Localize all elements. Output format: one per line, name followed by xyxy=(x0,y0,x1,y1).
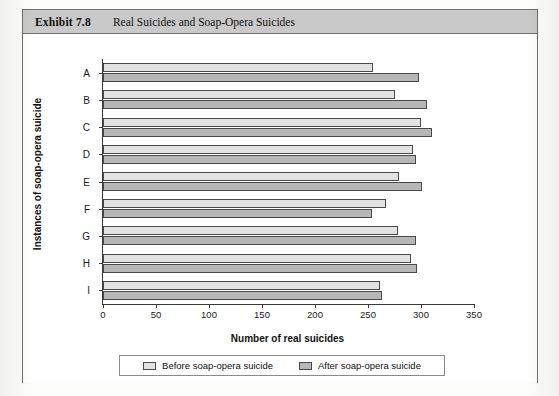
chart-legend: Before soap-opera suicide After soap-ope… xyxy=(119,355,445,376)
y-tick xyxy=(99,182,103,183)
y-tick-label-A: A xyxy=(83,67,90,78)
legend-item-after: After soap-opera suicide xyxy=(299,360,421,371)
x-axis-title: Number of real suicides xyxy=(102,333,473,344)
x-tick xyxy=(368,304,369,308)
bar-B-before xyxy=(103,90,395,99)
x-tick-label: 150 xyxy=(254,309,270,320)
bar-A-before xyxy=(103,63,373,72)
bar-H-before xyxy=(103,254,411,263)
bar-H-after xyxy=(103,264,417,273)
x-tick-label: 50 xyxy=(151,309,162,320)
bar-A-after xyxy=(103,73,419,82)
x-tick xyxy=(262,304,263,308)
bar-E-before xyxy=(103,172,399,181)
chart-area: Instances of soap-opera suicide 05010015… xyxy=(23,34,537,383)
x-tick-label: 100 xyxy=(201,309,217,320)
y-tick-label-H: H xyxy=(83,258,90,269)
plot-area: 050100150200250300350ABCDEFGHI xyxy=(102,59,474,305)
x-tick xyxy=(474,304,475,308)
bar-D-before xyxy=(103,145,413,154)
x-tick-label: 200 xyxy=(307,309,323,320)
exhibit-header: Exhibit 7.8 Real Suicides and Soap-Opera… xyxy=(23,10,537,34)
exhibit-number: Exhibit 7.8 xyxy=(35,16,91,28)
y-tick xyxy=(99,236,103,237)
bar-D-after xyxy=(103,155,416,164)
bar-C-after xyxy=(103,128,432,137)
y-tick-label-D: D xyxy=(83,149,90,160)
y-tick xyxy=(99,127,103,128)
y-tick xyxy=(99,263,103,264)
legend-label-after: After soap-opera suicide xyxy=(318,360,421,371)
bar-B-after xyxy=(103,100,427,109)
bar-F-after xyxy=(103,209,372,218)
legend-swatch-after-icon xyxy=(299,362,312,370)
bar-E-after xyxy=(103,182,422,191)
y-tick-label-C: C xyxy=(83,122,90,133)
x-tick-label: 350 xyxy=(466,309,482,320)
bar-G-before xyxy=(103,226,398,235)
y-tick-label-E: E xyxy=(83,176,90,187)
exhibit-frame: Exhibit 7.8 Real Suicides and Soap-Opera… xyxy=(22,9,538,383)
y-tick-label-I: I xyxy=(87,285,90,296)
y-tick xyxy=(99,154,103,155)
x-tick-label: 0 xyxy=(100,309,105,320)
exhibit-title: Real Suicides and Soap-Opera Suicides xyxy=(113,16,295,28)
x-tick xyxy=(209,304,210,308)
y-tick xyxy=(99,100,103,101)
legend-swatch-before-icon xyxy=(143,362,156,370)
bar-F-before xyxy=(103,199,386,208)
legend-label-before: Before soap-opera suicide xyxy=(162,360,273,371)
legend-item-before: Before soap-opera suicide xyxy=(143,360,273,371)
y-tick-label-F: F xyxy=(84,203,90,214)
x-tick-label: 300 xyxy=(413,309,429,320)
y-axis-title: Instances of soap-opera suicide xyxy=(32,98,43,250)
bar-G-after xyxy=(103,236,416,245)
x-tick xyxy=(156,304,157,308)
scanned-page: Exhibit 7.8 Real Suicides and Soap-Opera… xyxy=(0,0,559,396)
bar-C-before xyxy=(103,118,421,127)
x-tick xyxy=(421,304,422,308)
y-tick xyxy=(99,209,103,210)
x-tick xyxy=(103,304,104,308)
bar-I-after xyxy=(103,291,382,300)
x-tick xyxy=(315,304,316,308)
y-tick xyxy=(99,290,103,291)
x-tick-label: 250 xyxy=(360,309,376,320)
y-tick-label-B: B xyxy=(83,94,90,105)
bar-I-before xyxy=(103,281,380,290)
y-tick-label-G: G xyxy=(82,230,90,241)
y-tick xyxy=(99,73,103,74)
